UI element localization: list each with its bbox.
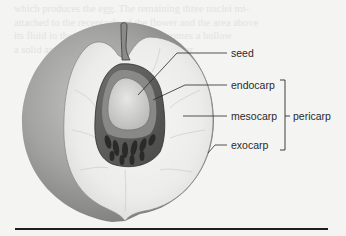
label-exocarp: exocarp xyxy=(231,139,268,151)
label-endocarp: endocarp xyxy=(231,79,275,91)
bottom-rule xyxy=(15,228,328,230)
label-mesocarp: mesocarp xyxy=(231,110,277,122)
label-pericarp: pericarp xyxy=(293,110,331,122)
figure: which produces the egg. The remaining th… xyxy=(0,0,346,236)
label-seed: seed xyxy=(231,47,254,59)
exocarp-leader-line xyxy=(208,145,227,153)
pericarp-bracket xyxy=(280,80,290,150)
